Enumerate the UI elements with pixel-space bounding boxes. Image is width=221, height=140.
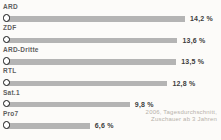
audience-share-chart: ARD14,2 %ZDF13,6 %ARD-Dritte13,5 %RTL12,… — [0, 0, 221, 140]
bar-row: ZDF13,6 % — [3, 24, 218, 45]
value-label: 13,5 % — [181, 58, 204, 66]
bar-row: RTL12,8 % — [3, 67, 218, 88]
bar — [7, 59, 176, 64]
bar-row: ARD14,2 % — [3, 3, 218, 24]
bar — [7, 102, 130, 107]
value-label: 14,2 % — [190, 15, 213, 23]
bar — [7, 81, 167, 86]
bar-track: 13,5 % — [3, 57, 218, 67]
source-note: 2006, Tagesdurchschnitt, Zuschauer ab 3 … — [146, 109, 217, 124]
source-note-line1: 2006, Tagesdurchschnitt, — [146, 109, 217, 117]
value-label: 13,6 % — [182, 37, 205, 45]
value-label: 9,8 % — [135, 101, 154, 109]
value-label: 6,6 % — [95, 122, 114, 130]
source-note-line2: Zuschauer ab 3 Jahren — [146, 116, 217, 124]
bar — [7, 16, 185, 21]
bar-row: ARD-Dritte13,5 % — [3, 46, 218, 67]
bar — [7, 38, 177, 43]
ring-marker-icon — [3, 57, 10, 64]
bar — [7, 123, 90, 128]
channel-label: ARD-Dritte — [3, 46, 218, 54]
channel-label: RTL — [3, 67, 218, 75]
bar-track: 14,2 % — [3, 14, 218, 24]
channel-label: ZDF — [3, 24, 218, 32]
bar-row: Sat.19,8 % — [3, 89, 218, 110]
bar-track: 12,8 % — [3, 78, 218, 88]
bar-track: 13,6 % — [3, 35, 218, 45]
value-label: 12,8 % — [172, 80, 195, 88]
channel-label: Sat.1 — [3, 89, 218, 97]
channel-label: ARD — [3, 3, 218, 11]
